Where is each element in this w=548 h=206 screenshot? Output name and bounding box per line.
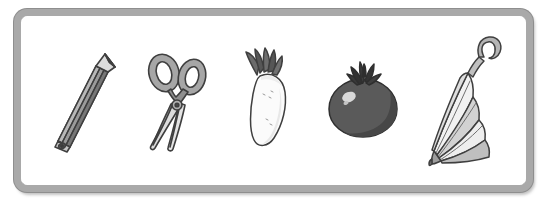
item-umbrella[interactable] (420, 33, 504, 169)
umbrella-icon (420, 33, 504, 169)
scissors-icon (135, 45, 215, 157)
item-scissors[interactable] (135, 45, 215, 157)
pencil-icon (43, 49, 121, 153)
object-row (43, 34, 504, 167)
rounded-frame-border (14, 9, 533, 192)
item-pencil[interactable] (43, 49, 121, 153)
item-radish[interactable] (230, 44, 306, 158)
tomato-icon (320, 57, 406, 145)
picture-card-scene (0, 0, 548, 206)
radish-icon (230, 44, 306, 158)
item-tomato[interactable] (320, 57, 406, 145)
